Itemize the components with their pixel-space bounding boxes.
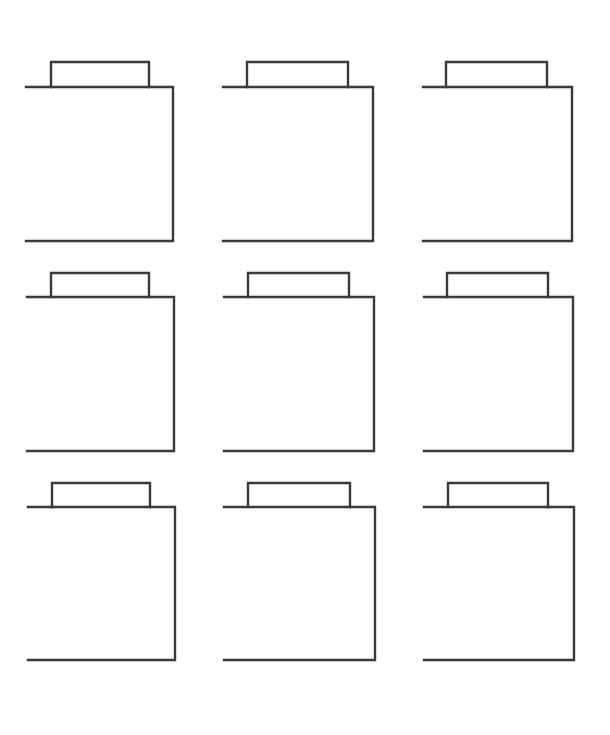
box-outline [424,297,573,451]
box-outline [27,297,174,451]
box-tab [52,483,150,507]
box-outline [26,87,173,241]
tabbed-box-shape [424,483,574,660]
tabbed-box-shape [224,273,374,451]
tabbed-box-shape [223,62,373,241]
box-tab [51,273,149,297]
box-tab [247,62,348,87]
tabbed-box-shape [224,483,375,660]
tabbed-box-shape [28,483,175,660]
tabbed-box-shape [423,62,572,241]
box-tab [447,273,548,297]
box-tab [248,273,349,297]
box-outline [423,87,572,241]
box-tab [248,483,350,507]
tabbed-box-shape [27,273,174,451]
box-tab [51,62,149,87]
box-outline [424,507,574,660]
box-outline [224,507,375,660]
box-outline [28,507,175,660]
box-outline [224,297,374,451]
tabbed-box-shape [424,273,573,451]
box-tab [448,483,548,507]
box-tab [446,62,547,87]
box-outline [223,87,373,241]
shape-grid [26,62,574,660]
diagram-canvas [0,0,610,735]
tabbed-box-shape [26,62,173,241]
